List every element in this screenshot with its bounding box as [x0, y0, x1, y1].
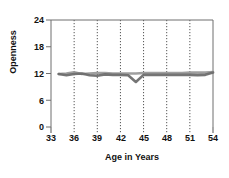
- plot-area: [0, 0, 229, 178]
- x-axis-ticks: [51, 127, 213, 133]
- openness-by-age-line-chart: Openness 24 18 12 6 0 33 36 39 42 45 48 …: [0, 0, 229, 178]
- y-axis-ticks: [46, 20, 51, 127]
